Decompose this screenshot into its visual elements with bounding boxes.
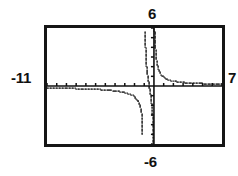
- curve-branch: [144, 31, 153, 142]
- window-xmax-label: 7: [228, 70, 236, 85]
- graphing-calculator-screenshot: 6 -11 7 -6: [0, 0, 238, 176]
- curve-branch: [47, 87, 143, 134]
- graph-viewport[interactable]: [44, 25, 225, 147]
- window-ymax-label: 6: [148, 6, 156, 21]
- window-ymin-label: -6: [144, 154, 157, 169]
- window-xmin-label: -11: [11, 70, 31, 85]
- curve-branch: [153, 28, 221, 84]
- graph-plot: [47, 28, 222, 144]
- axis-layer: [47, 28, 222, 144]
